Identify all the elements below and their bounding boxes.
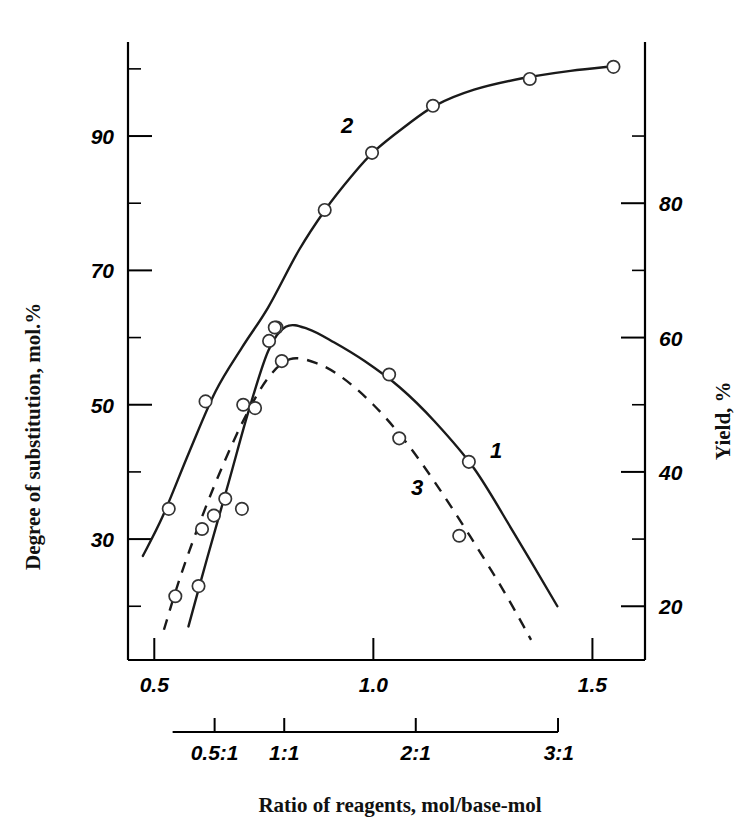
curve-labels-group: 123	[340, 113, 502, 501]
series-curve-1	[188, 325, 557, 626]
y-axis-left-tick-label: 50	[91, 394, 115, 417]
secondary-axis-tick-label: 0.5:1	[191, 741, 239, 764]
y-axis-right-tick-label: 60	[659, 327, 683, 350]
x-axis-title: Ratio of reagents, mol/base-mol	[258, 793, 541, 817]
data-markers-group	[163, 61, 620, 603]
secondary-axis-tick-label: 3:1	[544, 741, 574, 764]
curve-label-2: 2	[340, 113, 354, 138]
data-point-marker	[524, 73, 536, 85]
chart-canvas: 90705030806040200.51.01.50.5:11:12:13:1 …	[0, 0, 753, 837]
data-point-marker	[192, 580, 204, 592]
data-point-marker	[393, 432, 405, 444]
data-point-marker	[249, 402, 261, 414]
data-point-marker	[383, 368, 395, 380]
y-axis-left-tick-label: 90	[91, 125, 115, 148]
data-point-marker	[169, 590, 181, 602]
data-point-marker	[196, 523, 208, 535]
y-axis-right-tick-label: 40	[658, 461, 683, 484]
axes-group: 90705030806040200.51.01.50.5:11:12:13:1	[91, 42, 683, 764]
data-point-marker	[269, 321, 281, 333]
data-point-marker	[427, 100, 439, 112]
x-axis-tick-label: 1.0	[359, 673, 389, 696]
series-curve-2	[143, 66, 614, 556]
data-point-marker	[276, 355, 288, 367]
curve-label-3: 3	[411, 475, 423, 500]
data-point-marker	[607, 61, 619, 73]
y-axis-left-tick-label: 70	[91, 259, 115, 282]
data-point-marker	[453, 530, 465, 542]
data-point-marker	[263, 335, 275, 347]
x-axis-tick-label: 1.5	[578, 673, 608, 696]
data-point-marker	[163, 503, 175, 515]
y-axis-right-tick-label: 80	[659, 192, 683, 215]
data-point-marker	[237, 399, 249, 411]
x-axis-tick-label: 0.5	[140, 673, 170, 696]
data-point-marker	[199, 395, 211, 407]
data-point-marker	[463, 456, 475, 468]
data-point-marker	[236, 503, 248, 515]
secondary-axis-tick-label: 1:1	[269, 741, 299, 764]
y-axis-left-tick-label: 30	[91, 528, 115, 551]
data-point-marker	[319, 204, 331, 216]
data-point-marker	[208, 509, 220, 521]
secondary-axis-tick-label: 2:1	[400, 741, 431, 764]
y-axis-right-title: Yield, %	[711, 381, 735, 460]
curve-label-1: 1	[490, 438, 502, 463]
chart-figure: 90705030806040200.51.01.50.5:11:12:13:1 …	[0, 0, 753, 837]
y-axis-right-tick-label: 20	[658, 595, 683, 618]
data-point-marker	[366, 147, 378, 159]
y-axis-left-title: Degree of substitution, mol.%	[21, 303, 45, 570]
data-point-marker	[219, 493, 231, 505]
